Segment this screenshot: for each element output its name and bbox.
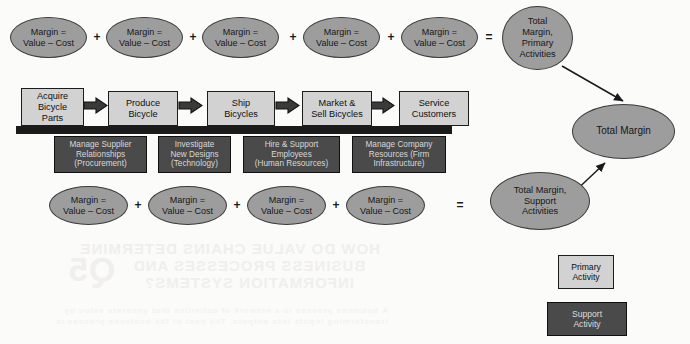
value-chain-figure: HOW DO VALUE CHAINS DETERMINE BUSINESS P…: [0, 0, 690, 344]
operator-plus-support-2: +: [232, 199, 242, 211]
total-margin-primary-ellipse: Total Margin, Primary Activities: [502, 6, 573, 70]
operator-plus-primary-4: +: [386, 31, 396, 43]
support-margin-ellipse-4: Margin = Value – Cost: [346, 186, 425, 225]
support-activity-box-investigate-new-designs: Investigate New Designs (Technology): [158, 136, 231, 173]
support-activity-box-manage-supplier-relationships: Manage Supplier Relationships (Procureme…: [54, 136, 147, 173]
primary-activity-box-acquire-bicycle-parts: Acquire Bicycle Parts: [21, 88, 84, 126]
primary-margin-ellipse-2: Margin = Value – Cost: [106, 17, 183, 58]
primary-activity-box-produce-bicycle: Produce Bicycle: [108, 91, 178, 126]
primary-margin-ellipse-5: Margin = Value – Cost: [401, 17, 478, 58]
total-margin-support-ellipse: Total Margin, Support Activities: [490, 172, 590, 230]
primary-margin-ellipse-1: Margin = Value – Cost: [10, 17, 87, 58]
bleed-through-heading: HOW DO VALUE CHAINS DETERMINE BUSINESS P…: [118, 240, 380, 291]
primary-activity-box-market-and-sell-bicycles: Market & Sell Bicycles: [302, 91, 372, 126]
grand-total-margin-ellipse: Total Margin: [572, 104, 675, 159]
support-margin-ellipse-2: Margin = Value – Cost: [148, 186, 227, 225]
support-activity-box-manage-company-resources: Manage Company Resources (Firm Infrastru…: [352, 136, 446, 173]
legend-support-activity: Support Activity: [547, 302, 627, 336]
operator-plus-support-3: +: [331, 199, 341, 211]
value-chain-spine-bar: [16, 126, 452, 134]
bleed-through-body: A business process is a network of activ…: [8, 305, 388, 327]
primary-margin-ellipse-3: Margin = Value – Cost: [202, 17, 279, 58]
operator-plus-primary-2: +: [188, 31, 198, 43]
operator-equals-support: =: [455, 199, 465, 211]
support-margin-ellipse-1: Margin = Value – Cost: [49, 186, 128, 225]
operator-equals-primary: =: [484, 31, 494, 43]
bleed-through-question-number: Q5: [68, 250, 115, 289]
support-activity-box-hire-and-support-employees: Hire & Support Employees (Human Resource…: [243, 136, 340, 173]
primary-margin-ellipse-4: Margin = Value – Cost: [303, 17, 380, 58]
operator-plus-support-1: +: [133, 199, 143, 211]
arrow-primary-to-total: [562, 66, 623, 101]
support-margin-ellipse-3: Margin = Value – Cost: [247, 186, 326, 225]
primary-activity-box-ship-bicycles: Ship Bicycles: [207, 91, 275, 126]
operator-plus-primary-3: +: [288, 31, 298, 43]
primary-activity-box-service-customers: Service Customers: [399, 91, 469, 126]
legend-primary-activity: Primary Activity: [558, 255, 614, 289]
operator-plus-primary-1: +: [92, 31, 102, 43]
